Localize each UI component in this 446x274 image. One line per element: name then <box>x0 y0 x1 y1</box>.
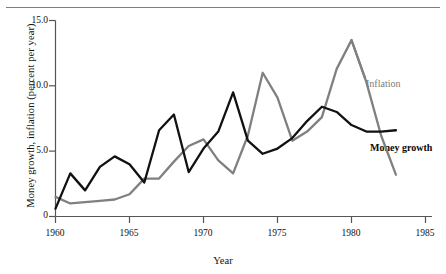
figure-container: Money growth, inflation (percent per yea… <box>0 0 446 274</box>
inflation-leader-line <box>352 40 366 78</box>
series-line-inflation <box>56 40 396 203</box>
series-line-money-growth <box>56 92 396 208</box>
plot-area <box>0 0 446 274</box>
x-tick-marks <box>56 217 426 224</box>
y-tick-marks <box>49 21 56 217</box>
